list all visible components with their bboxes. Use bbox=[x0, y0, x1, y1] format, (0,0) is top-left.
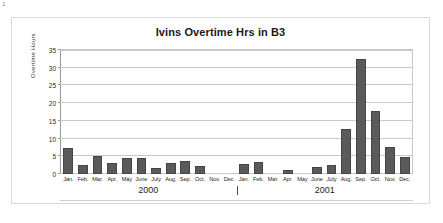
bar-slot bbox=[222, 50, 237, 174]
x-tick-label: May bbox=[295, 175, 310, 183]
x-tick-label: Jan. bbox=[237, 175, 252, 183]
y-tick-label: 25 bbox=[49, 82, 56, 89]
bar[interactable] bbox=[166, 163, 176, 174]
bar[interactable] bbox=[254, 162, 264, 174]
bar[interactable] bbox=[400, 157, 410, 174]
x-tick-label: Sep. bbox=[354, 175, 369, 183]
x-tick-label: Aug. bbox=[163, 175, 178, 183]
bar[interactable] bbox=[356, 59, 366, 174]
x-tick-label: July bbox=[149, 175, 164, 183]
y-tick-label: 5 bbox=[52, 153, 56, 160]
bar[interactable] bbox=[63, 148, 73, 174]
y-tick-label: 35 bbox=[49, 47, 56, 54]
bar-slot bbox=[295, 50, 310, 174]
x-tick-label: Dec. bbox=[397, 175, 412, 183]
bar-slot bbox=[207, 50, 222, 174]
bar-slot bbox=[76, 50, 91, 174]
bar-slot bbox=[383, 50, 398, 174]
x-tick-label: May bbox=[120, 175, 135, 183]
x-axis-group-labels: 20002001 bbox=[60, 185, 413, 201]
x-tick-label: Oct. bbox=[368, 175, 383, 183]
bar[interactable] bbox=[385, 147, 395, 174]
bar-slot bbox=[280, 50, 295, 174]
x-tick-label: July bbox=[324, 175, 339, 183]
y-tick-label: 0 bbox=[52, 171, 56, 178]
group-separator-tick bbox=[237, 186, 238, 195]
x-tick-label: Mar. bbox=[90, 175, 105, 183]
x-tick-label: June bbox=[134, 175, 149, 183]
bar[interactable] bbox=[239, 164, 249, 174]
bar[interactable] bbox=[327, 165, 337, 174]
x-tick-label: Feb. bbox=[76, 175, 91, 183]
chart-title: Ivins Overtime Hrs in B3 bbox=[12, 26, 429, 38]
bar-slot bbox=[354, 50, 369, 174]
x-tick-label: Nov. bbox=[383, 175, 398, 183]
bar-slot bbox=[163, 50, 178, 174]
bar[interactable] bbox=[78, 165, 88, 174]
y-tick-label: 20 bbox=[49, 100, 56, 107]
y-tick-label: 10 bbox=[49, 135, 56, 142]
x-tick-label: Nov. bbox=[207, 175, 222, 183]
bar-slot bbox=[105, 50, 120, 174]
group-underline bbox=[60, 200, 413, 201]
bar-slot bbox=[310, 50, 325, 174]
bar[interactable] bbox=[371, 111, 381, 174]
bar-slot bbox=[90, 50, 105, 174]
group-label-2000: 2000 bbox=[60, 185, 237, 195]
x-tick-label: Oct. bbox=[193, 175, 208, 183]
x-tick-label: June bbox=[310, 175, 325, 183]
x-tick-label: Aug. bbox=[339, 175, 354, 183]
bar[interactable] bbox=[93, 156, 103, 174]
page-corner-mark: 1 bbox=[2, 1, 5, 7]
y-tick-label: 30 bbox=[49, 64, 56, 71]
y-tick-label: 15 bbox=[49, 117, 56, 124]
x-tick-label: Sep. bbox=[178, 175, 193, 183]
bar-slot bbox=[134, 50, 149, 174]
plot-area-wrapper: 05101520253035 bbox=[60, 50, 413, 174]
bar-slot bbox=[149, 50, 164, 174]
x-axis-labels: Jan.Feb.Mar.Apr.MayJuneJulyAug.Sep.Oct.N… bbox=[60, 175, 413, 183]
bar-slot bbox=[193, 50, 208, 174]
bar-slot bbox=[266, 50, 281, 174]
bar[interactable] bbox=[312, 167, 322, 174]
bar-slot bbox=[251, 50, 266, 174]
x-tick-label: Apr. bbox=[280, 175, 295, 183]
group-label-2001: 2001 bbox=[237, 185, 414, 195]
bar-slot bbox=[368, 50, 383, 174]
bar-slot bbox=[237, 50, 252, 174]
bar-series bbox=[60, 50, 413, 174]
bar[interactable] bbox=[180, 161, 190, 174]
bar[interactable] bbox=[107, 163, 117, 174]
y-axis-label: Overtime Hours bbox=[30, 33, 36, 78]
chart-container: Ivins Overtime Hrs in B3 Overtime Hours … bbox=[11, 17, 430, 204]
bar-slot bbox=[324, 50, 339, 174]
bar[interactable] bbox=[195, 166, 205, 174]
bar[interactable] bbox=[283, 170, 293, 174]
bar[interactable] bbox=[137, 158, 147, 174]
x-tick-label: Jan. bbox=[61, 175, 76, 183]
bar-slot bbox=[397, 50, 412, 174]
bar-slot bbox=[339, 50, 354, 174]
bar[interactable] bbox=[341, 129, 351, 174]
bar-slot bbox=[178, 50, 193, 174]
x-tick-label: Dec. bbox=[222, 175, 237, 183]
x-tick-label: Apr. bbox=[105, 175, 120, 183]
x-tick-label: Feb. bbox=[251, 175, 266, 183]
bar[interactable] bbox=[151, 168, 161, 174]
bar-slot bbox=[61, 50, 76, 174]
x-tick-label: Mar. bbox=[266, 175, 281, 183]
bar-slot bbox=[120, 50, 135, 174]
bar[interactable] bbox=[122, 158, 132, 174]
